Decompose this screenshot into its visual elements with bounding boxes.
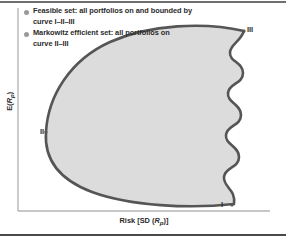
legend-markowitz-line1: Markowitz efficient set: all portfolios … xyxy=(33,28,170,37)
x-axis-label: Risk [SD (Rp)] xyxy=(18,216,270,226)
legend-item-feasible-set-text: Feasible set: all portfolios on and boun… xyxy=(33,6,192,27)
legend-feasible-line2: curve I–II–III xyxy=(33,17,75,26)
point-II-label: II xyxy=(40,127,44,136)
y-axis-label-prefix: E( xyxy=(5,103,14,110)
x-axis-label-prefix: Risk [SD ( xyxy=(120,216,155,225)
x-axis-label-suffix: )] xyxy=(164,216,169,225)
legend: Feasible set: all portfolios on and boun… xyxy=(24,6,224,50)
y-axis-label-sub: p xyxy=(8,94,15,98)
legend-item-markowitz-efficient-set: Markowitz efficient set: all portfolios … xyxy=(24,28,224,49)
legend-item-markowitz-text: Markowitz efficient set: all portfolios … xyxy=(33,28,170,49)
y-axis-label-var: R xyxy=(5,98,14,103)
y-axis-label-suffix: ) xyxy=(5,92,14,94)
efficient-frontier-figure: Feasible set: all portfolios on and boun… xyxy=(0,0,286,243)
point-I-marker xyxy=(230,203,233,206)
legend-item-feasible-set: Feasible set: all portfolios on and boun… xyxy=(24,6,224,27)
legend-feasible-line1: Feasible set: all portfolios on and boun… xyxy=(33,6,192,15)
point-III-label: III xyxy=(247,25,253,34)
y-axis-label: E(Rp) xyxy=(5,76,15,126)
bottom-divider-rule xyxy=(0,234,286,236)
circle-bullet-icon xyxy=(24,32,29,37)
feasible-set-region xyxy=(46,26,244,206)
point-II-marker xyxy=(44,130,47,133)
point-I-label: I xyxy=(221,200,223,209)
point-III-marker xyxy=(242,29,245,32)
legend-markowitz-line2: curve II–III xyxy=(33,39,69,48)
circle-bullet-icon xyxy=(24,10,29,15)
